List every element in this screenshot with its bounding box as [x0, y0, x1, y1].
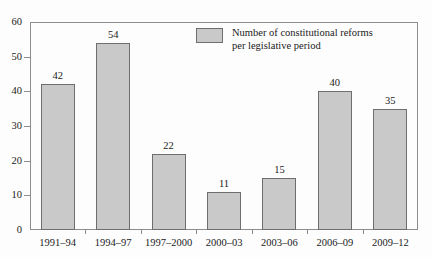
- y-axis-tick-label: 40: [12, 86, 23, 96]
- x-axis-tick-mark: [307, 230, 308, 234]
- y-axis-tick-label: 20: [12, 156, 23, 166]
- bar: [262, 178, 296, 230]
- bar-value-label: 11: [204, 178, 244, 189]
- legend-swatch-icon: [196, 28, 223, 43]
- bar: [41, 84, 75, 230]
- bar-chart: 0102030405060 42542211154035 1991–941994…: [0, 0, 432, 257]
- bar-value-label: 22: [149, 140, 189, 151]
- x-axis-tick-mark: [85, 230, 86, 234]
- x-axis-tick-mark: [363, 230, 364, 234]
- bar: [152, 154, 186, 230]
- bar-value-label: 40: [315, 77, 355, 88]
- x-axis: 1991–941994–971997–20002000–032003–06200…: [30, 230, 418, 257]
- y-axis: 0102030405060: [0, 0, 30, 257]
- y-axis-tick-label: 50: [12, 52, 23, 62]
- y-axis-tick-label: 60: [12, 17, 23, 27]
- y-axis-tick-label: 30: [12, 121, 23, 131]
- x-axis-tick-label: 2009–12: [356, 237, 424, 249]
- bar: [96, 43, 130, 230]
- x-axis-tick-mark: [141, 230, 142, 234]
- bar-value-label: 35: [370, 95, 410, 106]
- legend-label: Number of constitutional reforms per leg…: [232, 27, 373, 52]
- bar-value-label: 54: [93, 29, 133, 40]
- y-axis-tick-label: 0: [17, 225, 22, 235]
- bar-value-label: 15: [259, 164, 299, 175]
- bar: [318, 91, 352, 230]
- bar: [373, 109, 407, 230]
- bar-value-label: 42: [38, 70, 78, 81]
- bars-layer: 42542211154035: [30, 22, 418, 230]
- bar: [207, 192, 241, 230]
- y-axis-tick-label: 10: [12, 190, 23, 200]
- x-axis-tick-mark: [252, 230, 253, 234]
- x-axis-tick-mark: [196, 230, 197, 234]
- chart-legend: Number of constitutional reforms per leg…: [196, 27, 373, 52]
